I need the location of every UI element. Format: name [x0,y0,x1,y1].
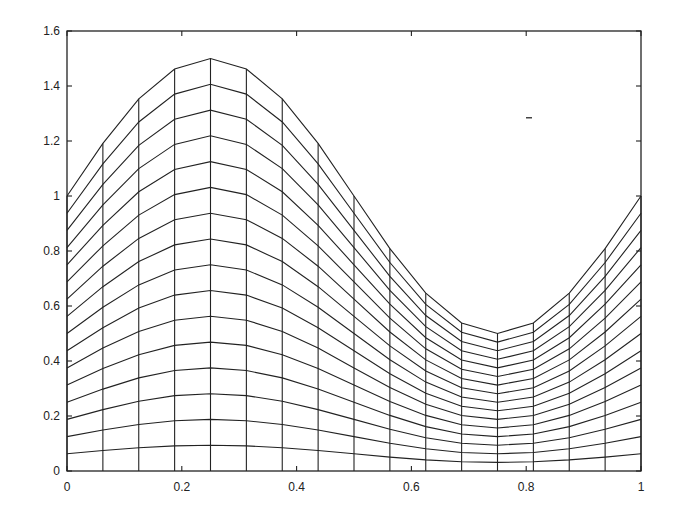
y-tick-label: 0.2 [43,409,60,423]
x-tick-label: 0.6 [403,480,420,494]
y-tick-label: 1.2 [43,134,60,148]
x-tick-label: 0 [64,480,71,494]
x-tick-label: 0.2 [173,480,190,494]
y-tick-label: 0.8 [43,244,60,258]
y-tick-label: 0.4 [43,354,60,368]
y-tick-label: 0 [53,464,60,478]
y-tick-label: 0.6 [43,299,60,313]
mesh-grid [67,59,641,472]
x-tick-label: 0.4 [288,480,305,494]
y-tick-label: 1.6 [43,24,60,38]
y-tick-label: 1 [53,189,60,203]
x-tick-label: 1 [638,480,645,494]
x-tick-label: 0.8 [518,480,535,494]
mesh-chart: 00.20.40.60.811.21.41.6 00.20.40.60.81 [0,0,675,524]
y-tick-label: 1.4 [43,79,60,93]
scan-artifact-mark [526,117,532,119]
